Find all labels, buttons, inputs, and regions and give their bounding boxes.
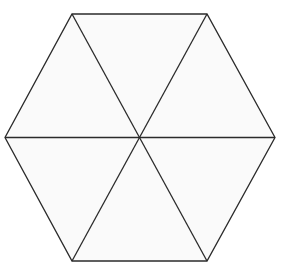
hexagon-diagram	[0, 0, 285, 274]
figure-canvas	[0, 0, 285, 274]
